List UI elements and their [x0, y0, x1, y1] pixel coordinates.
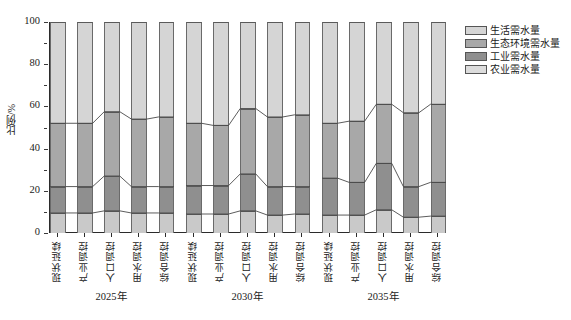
- x-axis-label: 用水调控: [405, 240, 415, 282]
- legend-label: 工业需水量: [490, 51, 540, 62]
- x-tick-mark: [410, 233, 411, 237]
- stack-boundary-line: [186, 109, 310, 126]
- y-tick-mark: [44, 149, 48, 150]
- stack-boundary-line: [322, 104, 446, 123]
- stack-boundary-line: [50, 112, 174, 124]
- stack-boundary-line: [322, 163, 446, 186]
- x-tick-mark: [356, 233, 357, 237]
- x-tick-mark: [247, 233, 248, 237]
- y-minor-tick-mark: [44, 128, 47, 129]
- stack-boundary-line: [322, 210, 446, 217]
- y-tick-mark: [44, 22, 48, 23]
- group-label: 2030年: [185, 288, 309, 303]
- y-minor-tick-mark: [44, 43, 47, 44]
- y-minor-tick-mark: [44, 212, 47, 213]
- legend-label: 生活需水量: [490, 25, 540, 36]
- x-axis-label: 产业调控: [79, 240, 89, 282]
- legend-label: 生态环境需水量: [490, 38, 560, 49]
- y-tick-label: 100: [14, 16, 40, 26]
- x-axis-label: 用水调控: [133, 240, 143, 282]
- plot-area: [49, 22, 445, 233]
- legend-swatch: [465, 65, 487, 74]
- x-tick-mark: [193, 233, 194, 237]
- x-axis-label: 综合调控: [432, 240, 442, 282]
- y-tick-mark: [44, 64, 48, 65]
- stack-boundary-line: [50, 176, 174, 187]
- y-tick-label: 0: [14, 227, 40, 237]
- y-tick-mark: [44, 106, 48, 107]
- y-tick-mark: [44, 191, 48, 192]
- legend-label: 农业需水量: [490, 64, 540, 75]
- x-axis-label: 人口调控: [106, 240, 116, 282]
- y-tick-mark: [44, 233, 48, 234]
- x-tick-mark: [329, 233, 330, 237]
- legend-item[interactable]: 农业需水量: [465, 63, 569, 76]
- stack-boundary-line: [50, 211, 174, 213]
- x-tick-mark: [220, 233, 221, 237]
- y-tick-label: 20: [14, 185, 40, 195]
- x-axis-label: 综合调控: [160, 240, 170, 282]
- legend-item[interactable]: 工业需水量: [465, 50, 569, 63]
- y-tick-label: 60: [14, 100, 40, 110]
- y-minor-tick-mark: [44, 170, 47, 171]
- x-axis-label: 现状延续: [188, 240, 198, 282]
- x-axis-label: 人口调控: [242, 240, 252, 282]
- legend-swatch: [465, 26, 487, 35]
- legend-item[interactable]: 生态环境需水量: [465, 37, 569, 50]
- x-tick-mark: [111, 233, 112, 237]
- x-tick-mark: [84, 233, 85, 237]
- legend-item[interactable]: 生活需水量: [465, 24, 569, 37]
- stack-connector-lines: [50, 22, 446, 233]
- x-tick-mark: [437, 233, 438, 237]
- x-tick-mark: [301, 233, 302, 237]
- stack-boundary-line: [186, 211, 310, 215]
- x-tick-mark: [274, 233, 275, 237]
- legend-swatch: [465, 39, 487, 48]
- x-tick-mark: [57, 233, 58, 237]
- chart-legend: 生活需水量生态环境需水量工业需水量农业需水量: [465, 24, 569, 76]
- x-axis-label: 产业调控: [215, 240, 225, 282]
- y-minor-tick-mark: [44, 85, 47, 86]
- x-axis-label: 用水调控: [269, 240, 279, 282]
- y-tick-label: 80: [14, 58, 40, 68]
- x-axis-label: 综合调控: [296, 240, 306, 282]
- stacked-bar-chart: 比例/% 020406080100 现状延续产业调控人口调控用水调控综合调控20…: [0, 0, 571, 320]
- x-axis-label: 产业调控: [351, 240, 361, 282]
- stack-boundary-line: [186, 174, 310, 187]
- x-tick-mark: [138, 233, 139, 237]
- group-label: 2025年: [49, 288, 173, 303]
- x-tick-mark: [165, 233, 166, 237]
- y-tick-label: 40: [14, 143, 40, 153]
- x-tick-mark: [383, 233, 384, 237]
- group-label: 2035年: [321, 288, 445, 303]
- x-axis-label: 人口调控: [378, 240, 388, 282]
- x-axis-label: 现状延续: [324, 240, 334, 282]
- x-axis-label: 现状延续: [52, 240, 62, 282]
- legend-swatch: [465, 52, 487, 61]
